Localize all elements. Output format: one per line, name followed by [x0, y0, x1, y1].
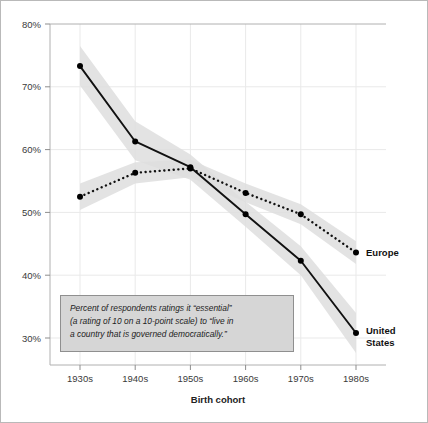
x-tick-label-1950s: 1950s — [177, 373, 203, 384]
data-point-europe-1980s — [353, 250, 359, 256]
x-tick-label-1940s: 1940s — [122, 373, 148, 384]
data-point-europe-1970s — [298, 211, 304, 217]
chart-figure: 30%40%50%60%70%80% 1930s1940s1950s1960s1… — [0, 0, 428, 423]
data-point-united-states-1940s — [132, 138, 138, 144]
annotation-line-1: Percent of respondents ratings it “essen… — [70, 303, 233, 313]
chart-background — [0, 0, 428, 423]
data-point-europe-1930s — [77, 194, 83, 200]
line-chart: 30%40%50%60%70%80% 1930s1940s1950s1960s1… — [0, 0, 428, 423]
y-tick-label-70: 70% — [22, 81, 42, 92]
y-tick-label-50: 50% — [22, 207, 42, 218]
data-point-europe-1940s — [132, 170, 138, 176]
data-point-europe-1950s — [187, 165, 193, 171]
x-tick-label-1960s: 1960s — [233, 373, 259, 384]
y-tick-label-80: 80% — [22, 19, 42, 30]
data-point-united-states-1970s — [298, 258, 304, 264]
y-tick-label-60: 60% — [22, 144, 42, 155]
x-tick-label-1970s: 1970s — [288, 373, 314, 384]
series-label-europe: Europe — [366, 247, 399, 258]
y-tick-label-30: 30% — [22, 333, 42, 344]
y-tick-label-40: 40% — [22, 270, 42, 281]
data-point-united-states-1930s — [77, 63, 83, 69]
annotation-callout: Percent of respondents ratings it “essen… — [61, 296, 294, 352]
data-point-united-states-1960s — [243, 211, 249, 217]
x-axis-title: Birth cohort — [191, 394, 246, 405]
annotation-line-2: (a rating of 10 on a 10-point scale) to … — [70, 316, 234, 326]
data-point-europe-1960s — [243, 190, 249, 196]
x-tick-label-1930s: 1930s — [67, 373, 93, 384]
series-label-united-states-line2: States — [366, 337, 395, 348]
data-point-united-states-1980s — [353, 330, 359, 336]
series-label-united-states-line1: United — [366, 325, 396, 336]
x-tick-label-1980s: 1980s — [343, 373, 369, 384]
annotation-line-3: a country that is governed democraticall… — [70, 329, 228, 339]
